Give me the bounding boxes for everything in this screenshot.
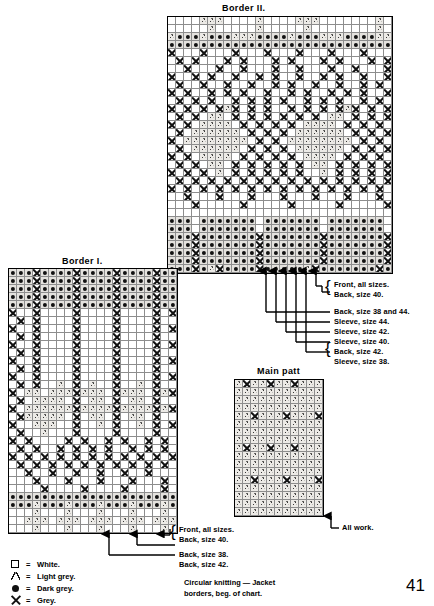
cell-dark-grey <box>328 217 336 225</box>
cell-white <box>376 57 384 65</box>
cell-light-grey <box>153 517 161 525</box>
cell-white <box>176 137 184 145</box>
cell-white <box>248 17 256 25</box>
cell-light-grey <box>328 129 336 137</box>
cell-white <box>368 97 376 105</box>
cell-white <box>65 445 73 453</box>
cell-dark-grey <box>368 217 376 225</box>
border2-note-1: Back, size 40. <box>334 290 383 300</box>
cell-white <box>376 73 384 81</box>
cell-light-grey <box>283 436 291 444</box>
cell-white <box>216 89 224 97</box>
cell-light-grey <box>267 500 275 508</box>
border2-chart-grid[interactable] <box>167 16 393 274</box>
cell-grey <box>272 121 280 129</box>
cell-light-grey <box>33 509 41 517</box>
cell-grey <box>41 485 49 493</box>
cell-dark-grey <box>25 501 33 509</box>
cell-light-grey <box>307 436 315 444</box>
cell-grey <box>224 81 232 89</box>
cell-white <box>65 341 73 349</box>
cell-dark-grey <box>145 501 153 509</box>
cell-light-grey <box>200 129 208 137</box>
cell-white <box>81 349 89 357</box>
cell-light-grey <box>307 468 315 476</box>
cell-white <box>256 161 264 169</box>
cell-grey <box>113 389 121 397</box>
cell-white <box>25 397 33 405</box>
cell-white <box>192 209 200 217</box>
cell-white <box>280 89 288 97</box>
cell-grey <box>288 201 296 209</box>
cell-white <box>184 17 192 25</box>
cell-dark-grey <box>41 301 49 309</box>
cell-dark-grey <box>240 265 248 273</box>
cell-light-grey <box>105 405 113 413</box>
cell-grey <box>169 421 177 429</box>
cell-dark-grey <box>168 241 176 249</box>
cell-grey <box>113 333 121 341</box>
cell-white <box>41 349 49 357</box>
cell-white <box>328 193 336 201</box>
cell-grey <box>153 357 161 365</box>
cell-white <box>121 317 129 325</box>
cell-grey <box>384 89 392 97</box>
cell-white <box>33 453 41 461</box>
cell-dark-grey <box>312 257 320 265</box>
cell-white <box>176 65 184 73</box>
cell-grey <box>89 453 97 461</box>
cell-dark-grey <box>89 493 97 501</box>
cell-light-grey <box>299 484 307 492</box>
cell-grey <box>17 381 25 389</box>
cell-grey <box>320 233 328 241</box>
cell-grey <box>344 153 352 161</box>
cell-dark-grey <box>352 257 360 265</box>
cell-white <box>105 413 113 421</box>
cell-grey <box>272 153 280 161</box>
cell-white <box>224 17 232 25</box>
cell-grey <box>336 169 344 177</box>
cell-dark-grey <box>368 233 376 241</box>
cell-grey <box>320 57 328 65</box>
cell-dark-grey <box>280 225 288 233</box>
cell-white <box>17 517 25 525</box>
cell-light-grey <box>283 508 291 516</box>
cell-white <box>49 525 57 533</box>
cell-white <box>65 317 73 325</box>
cell-light-grey <box>291 436 299 444</box>
cell-light-grey <box>259 420 267 428</box>
cell-white <box>137 485 145 493</box>
cell-white <box>65 413 73 421</box>
cell-white <box>344 129 352 137</box>
cell-grey <box>192 57 200 65</box>
cell-white <box>264 193 272 201</box>
cell-dark-grey <box>288 249 296 257</box>
cell-white <box>89 341 97 349</box>
cell-grey <box>384 257 392 265</box>
cell-white <box>41 381 49 389</box>
cell-grey <box>17 317 25 325</box>
cell-grey <box>113 309 121 317</box>
cell-white <box>264 209 272 217</box>
cell-light-grey <box>200 33 208 41</box>
mainpatt-chart-grid[interactable] <box>234 379 324 517</box>
cell-white <box>200 73 208 81</box>
cell-dark-grey <box>280 233 288 241</box>
cell-white <box>25 373 33 381</box>
cell-light-grey <box>243 404 251 412</box>
cell-dark-grey <box>264 41 272 49</box>
cell-dark-grey <box>161 301 169 309</box>
cell-white <box>176 73 184 81</box>
cell-grey <box>73 405 81 413</box>
cell-dark-grey <box>57 269 65 277</box>
cell-white <box>169 381 177 389</box>
cell-grey <box>153 325 161 333</box>
cell-light-grey <box>137 405 145 413</box>
border1-chart-grid[interactable] <box>8 268 178 534</box>
cell-grey <box>248 193 256 201</box>
cell-white <box>384 185 392 193</box>
cell-light-grey <box>129 413 137 421</box>
cell-grey <box>113 317 121 325</box>
cell-white <box>280 73 288 81</box>
cell-dark-grey <box>368 265 376 273</box>
